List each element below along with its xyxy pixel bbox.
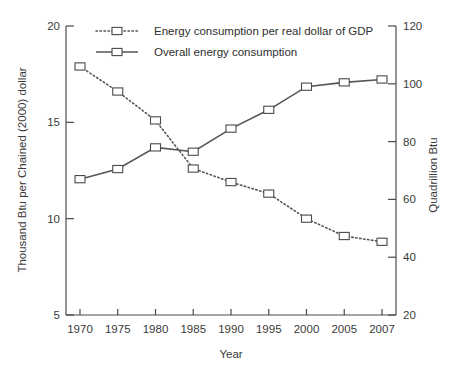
chart-legend: Energy consumption per real dollar of GD… bbox=[96, 25, 374, 58]
y-axis-left-title: Thousand Btu per Chained (2000) dollar bbox=[16, 67, 28, 272]
x-tick-label: 1970 bbox=[67, 323, 93, 335]
x-tick-label: 2005 bbox=[331, 323, 357, 335]
x-axis-title: Year bbox=[219, 348, 242, 360]
x-tick-label: 2007 bbox=[369, 323, 395, 335]
data-point-marker bbox=[113, 88, 123, 95]
x-tick-label: 1985 bbox=[180, 323, 206, 335]
legend-marker-1 bbox=[112, 48, 122, 55]
data-point-marker bbox=[151, 117, 161, 124]
legend-label-0: Energy consumption per real dollar of GD… bbox=[154, 25, 374, 37]
data-point-marker bbox=[264, 190, 274, 197]
y-axis-right-ticks: 20406080100120 bbox=[388, 20, 422, 321]
y-right-tick-label: 80 bbox=[403, 136, 416, 148]
x-tick-label: 1980 bbox=[143, 323, 169, 335]
data-point-marker bbox=[226, 125, 236, 132]
y-left-tick-label: 10 bbox=[47, 213, 60, 225]
data-point-marker bbox=[75, 176, 85, 183]
y-left-tick-label: 20 bbox=[47, 20, 60, 32]
y-axis-left-ticks: 5101520 bbox=[47, 20, 74, 321]
chart-container: 5101520 20406080100120 19701975198019851… bbox=[0, 0, 451, 373]
data-point-marker bbox=[113, 165, 123, 172]
y-right-tick-label: 120 bbox=[403, 20, 422, 32]
data-point-marker bbox=[226, 178, 236, 185]
data-point-marker bbox=[377, 76, 387, 83]
x-tick-label: 1990 bbox=[218, 323, 244, 335]
data-point-marker bbox=[302, 215, 312, 222]
data-point-marker bbox=[264, 106, 274, 113]
data-point-marker bbox=[188, 165, 198, 172]
y-left-tick-label: 5 bbox=[54, 309, 60, 321]
data-point-marker bbox=[75, 63, 85, 70]
data-point-marker bbox=[188, 148, 198, 155]
x-tick-label: 1995 bbox=[256, 323, 282, 335]
legend-marker-0 bbox=[112, 27, 122, 34]
series-line-0 bbox=[80, 66, 382, 241]
data-point-marker bbox=[302, 83, 312, 90]
energy-consumption-line-chart: 5101520 20406080100120 19701975198019851… bbox=[0, 0, 451, 373]
y-axis-right-title: Quadrillion Btu bbox=[427, 137, 439, 212]
data-point-marker bbox=[377, 238, 387, 245]
y-right-tick-label: 60 bbox=[403, 193, 416, 205]
data-point-marker bbox=[151, 144, 161, 151]
data-point-marker bbox=[339, 79, 349, 86]
y-right-tick-label: 40 bbox=[403, 251, 416, 263]
legend-label-1: Overall energy consumption bbox=[154, 46, 297, 58]
data-point-marker bbox=[339, 232, 349, 239]
x-axis-ticks: 197019751980198519901995200020052007 bbox=[67, 309, 395, 335]
y-right-tick-label: 100 bbox=[403, 78, 422, 90]
series-layer bbox=[75, 63, 387, 246]
y-left-tick-label: 15 bbox=[47, 116, 60, 128]
x-tick-label: 2000 bbox=[294, 323, 320, 335]
x-tick-label: 1975 bbox=[105, 323, 131, 335]
y-right-tick-label: 20 bbox=[403, 309, 416, 321]
